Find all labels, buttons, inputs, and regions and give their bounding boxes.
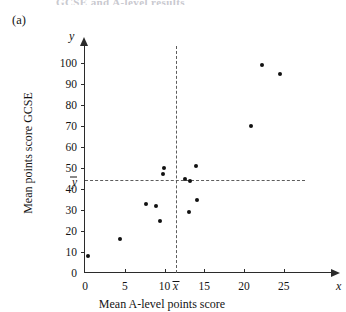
- y-tick-label: 10: [66, 246, 78, 258]
- data-point: [195, 198, 199, 202]
- x-axis-variable-symbol: x: [336, 279, 341, 294]
- y-axis-variable-symbol: y: [69, 29, 74, 44]
- data-point: [162, 166, 166, 170]
- x-tick-label: 5: [122, 280, 128, 292]
- x-tick-label: 0: [82, 280, 88, 292]
- y-tick-label: 80: [66, 99, 78, 111]
- data-point: [249, 124, 253, 128]
- data-point: [183, 177, 187, 181]
- x-tick-mark: [284, 269, 285, 273]
- data-point: [187, 210, 191, 214]
- mean-x-dashed-line: [176, 46, 177, 273]
- x-tick-label: 25: [278, 280, 290, 292]
- y-tick-mark: [81, 63, 85, 64]
- y-tick-label: 60: [66, 141, 78, 153]
- data-point: [161, 172, 165, 176]
- y-tick-label: 0: [71, 267, 77, 279]
- y-tick-mark: [81, 84, 85, 85]
- y-tick-mark: [81, 126, 85, 127]
- x-tick-mark: [165, 269, 166, 273]
- mean-x-overbar: [173, 281, 180, 282]
- y-tick-label: 20: [66, 225, 78, 237]
- data-point: [194, 164, 198, 168]
- data-point: [278, 72, 282, 76]
- clipped-header-text: GCSE and A-level results: [56, 0, 276, 5]
- y-tick-mark: [81, 252, 85, 253]
- y-tick-label: 70: [66, 120, 78, 132]
- x-tick-mark: [125, 269, 126, 273]
- data-point: [154, 204, 158, 208]
- mean-y-overbar: [70, 176, 77, 177]
- mean-y-dashed-line: [85, 180, 305, 181]
- data-point: [158, 219, 162, 223]
- x-axis-title: Mean A-level points score: [99, 297, 225, 312]
- mean-y-label: y: [70, 174, 77, 187]
- y-tick-mark: [81, 210, 85, 211]
- mean-x-label: x: [173, 279, 180, 292]
- x-axis-line: [85, 272, 332, 273]
- x-tick-mark: [244, 269, 245, 273]
- x-tick-mark: [204, 269, 205, 273]
- data-point: [86, 254, 90, 258]
- y-tick-mark: [81, 231, 85, 232]
- x-tick-label: 15: [199, 280, 211, 292]
- y-tick-label: 90: [66, 78, 78, 90]
- x-tick-label: 20: [238, 280, 250, 292]
- y-axis-arrow-icon: [80, 37, 88, 46]
- y-tick-mark: [81, 168, 85, 169]
- y-tick-label: 100: [60, 57, 77, 69]
- data-point: [118, 237, 122, 241]
- y-tick-mark: [81, 189, 85, 190]
- y-tick-mark: [81, 105, 85, 106]
- x-tick-label: 10: [159, 280, 171, 292]
- data-point: [188, 179, 192, 183]
- y-axis-line: [84, 45, 85, 273]
- y-axis-title: Mean points score GCSE: [21, 92, 36, 214]
- part-label: (a): [12, 13, 26, 28]
- y-tick-label: 50: [66, 162, 78, 174]
- y-tick-mark: [81, 147, 85, 148]
- data-point: [144, 202, 148, 206]
- data-point: [260, 63, 264, 67]
- x-axis-arrow-icon: [331, 269, 340, 277]
- y-tick-label: 30: [66, 204, 78, 216]
